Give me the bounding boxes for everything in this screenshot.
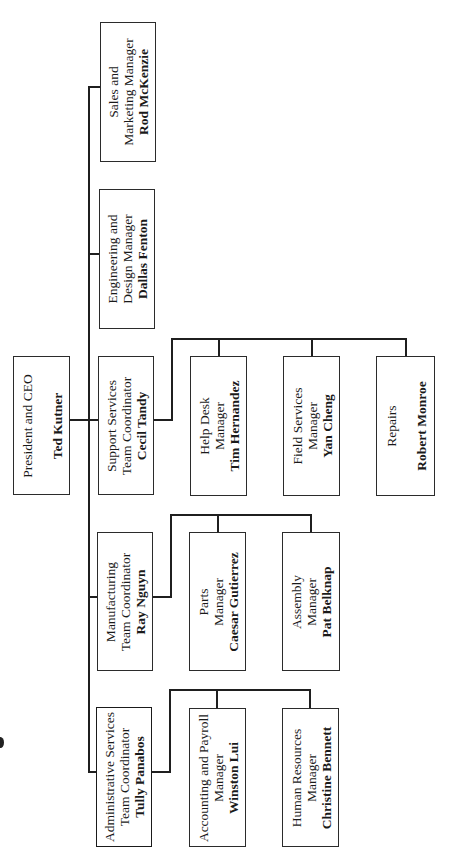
page-edge-mark — [0, 737, 4, 748]
manufacturing-name: Ray Nguyn — [133, 552, 148, 650]
parts-title-2: Manager — [210, 552, 225, 652]
engineering-box: Engineering and Design Manager Dallas Fe… — [99, 189, 155, 329]
sales-title-1: Sales and — [106, 38, 121, 146]
sales-name: Rod McKenzie — [136, 38, 151, 146]
helpdesk-drop — [218, 338, 220, 356]
support-name: Cecil Tandy — [134, 376, 149, 474]
assembly-drop — [310, 514, 312, 532]
repairs-name: Robert Monroe — [413, 381, 428, 470]
support-riser — [171, 338, 173, 420]
repairs-title: Repairs — [383, 381, 398, 470]
sales-box: Sales and Marketing Manager Rod McKenzie — [100, 22, 156, 162]
org-chart: President and CEO Ted Kutner Sales and M… — [0, 0, 453, 867]
hr-title-2: Manager — [303, 726, 318, 828]
assembly-title-1: Assembly — [289, 566, 304, 637]
repairs-box: Repairs Robert Monroe — [376, 356, 435, 496]
ceo-name: Ted Kutner — [49, 374, 64, 478]
admin-bus — [169, 689, 311, 691]
ceo-connector — [69, 419, 98, 421]
ceo-title: President and CEO — [19, 374, 34, 478]
support-title-1: Support Services — [104, 376, 119, 474]
accounting-name: Winston Lui — [225, 713, 240, 841]
field-box: Field Services Manager Yan Cheng — [283, 356, 340, 496]
admin-out-connector — [151, 771, 171, 773]
accounting-box: Accounting and Payroll Manager Winston L… — [189, 708, 246, 847]
field-name: Yan Cheng — [319, 388, 334, 465]
hr-name: Christine Bennett — [318, 726, 333, 828]
accounting-title-2: Manager — [210, 713, 225, 841]
engineering-title-1: Engineering and — [105, 214, 120, 304]
admin-title-2: Team Coordinator — [117, 712, 132, 842]
main-trunk-line — [88, 86, 90, 773]
ceo-box: President and CEO Ted Kutner — [13, 356, 70, 495]
hr-box: Human Resources Manager Christine Bennet… — [282, 708, 339, 847]
accounting-drop — [216, 689, 218, 708]
manufacturing-title-2: Team Coordinator — [118, 552, 133, 650]
engineering-name: Dallas Fenton — [135, 214, 150, 304]
admin-riser — [169, 689, 171, 772]
admin-title-1: Administrative Services — [102, 712, 117, 842]
support-title-2: Team Coordinator — [119, 376, 134, 474]
assembly-box: Assembly Manager Pat Belknap — [282, 532, 340, 671]
assembly-name: Pat Belknap — [319, 566, 334, 637]
sales-connector — [88, 86, 100, 88]
support-bus — [171, 338, 407, 340]
manufacturing-connector — [88, 596, 97, 598]
helpdesk-title-2: Manager — [211, 381, 226, 472]
support-box: Support Services Team Coordinator Cecil … — [98, 356, 154, 495]
repairs-drop — [405, 338, 407, 356]
manufacturing-riser — [170, 514, 172, 597]
hr-title-1: Human Resources — [288, 726, 303, 828]
admin-name: Tully Panabos — [132, 712, 147, 842]
field-title-1: Field Services — [289, 388, 304, 465]
assembly-title-2: Manager — [304, 566, 319, 637]
manufacturing-out-connector — [152, 596, 172, 598]
helpdesk-name: Tim Hernandez — [226, 381, 241, 472]
field-title-2: Manager — [304, 388, 319, 465]
parts-drop — [217, 514, 219, 532]
engineering-connector — [88, 253, 99, 255]
sales-title-2: Marketing Manager — [121, 38, 136, 146]
parts-name: Caesar Gutierrez — [225, 552, 240, 652]
admin-box: Administrative Services Team Coordinator… — [96, 707, 152, 847]
parts-title-1: Parts — [195, 552, 210, 652]
manufacturing-title-1: Manufacturing — [103, 552, 118, 650]
helpdesk-box: Help Desk Manager Tim Hernandez — [190, 356, 247, 496]
hr-drop — [309, 689, 311, 708]
manufacturing-box: Manufacturing Team Coordinator Ray Nguyn — [97, 532, 153, 671]
manufacturing-bus — [170, 514, 312, 516]
field-drop — [311, 338, 313, 356]
engineering-title-2: Design Manager — [120, 214, 135, 304]
accounting-title-1: Accounting and Payroll — [195, 713, 210, 841]
admin-connector — [88, 771, 96, 773]
parts-box: Parts Manager Caesar Gutierrez — [189, 532, 246, 671]
helpdesk-title-1: Help Desk — [196, 381, 211, 472]
